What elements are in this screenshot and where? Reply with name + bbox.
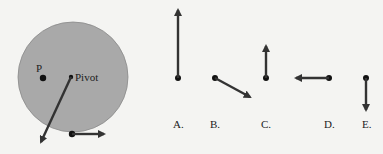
option-a — [175, 10, 181, 81]
option-e-label: E. — [362, 118, 371, 130]
option-e — [363, 75, 369, 110]
option-c — [263, 46, 269, 81]
diagram-canvas — [0, 0, 383, 154]
arrow-down-right-icon — [215, 78, 250, 97]
pivot-label: Pivot — [75, 71, 98, 83]
option-b-label: B. — [210, 118, 220, 130]
point-p-label: P — [36, 62, 42, 74]
option-d-label: D. — [324, 118, 335, 130]
rotating-disk — [18, 22, 128, 142]
point-p-dot — [40, 75, 46, 81]
option-a-label: A. — [173, 118, 184, 130]
option-d — [296, 75, 332, 81]
option-b — [212, 75, 250, 97]
option-c-label: C. — [261, 118, 271, 130]
